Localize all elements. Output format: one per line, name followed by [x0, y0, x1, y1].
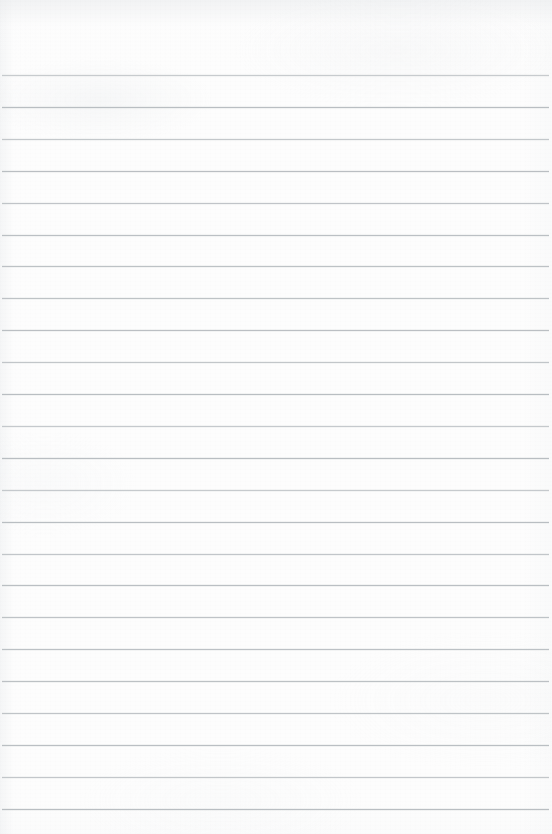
rule-line	[2, 713, 549, 714]
rule-line	[2, 426, 549, 427]
rule-line	[2, 777, 549, 778]
rule-line	[2, 681, 549, 682]
rule-line	[2, 649, 549, 650]
paper-mottle-texture	[0, 0, 552, 834]
rule-line	[2, 490, 549, 491]
rule-line	[2, 139, 549, 140]
ruled-lines-layer	[0, 0, 552, 834]
rule-line	[2, 585, 549, 586]
rule-line	[2, 266, 549, 267]
rule-line	[2, 745, 549, 746]
scanned-paper-page	[0, 0, 552, 834]
rule-line	[2, 394, 549, 395]
rule-line	[2, 554, 549, 555]
rule-line	[2, 362, 549, 363]
rule-line	[2, 107, 549, 108]
paper-grain-texture	[0, 0, 552, 834]
rule-line	[2, 522, 549, 523]
rule-line	[2, 298, 549, 299]
rule-line	[2, 809, 549, 810]
rule-line	[2, 617, 549, 618]
rule-line	[2, 171, 549, 172]
rule-line	[2, 458, 549, 459]
rule-line	[2, 75, 549, 76]
rule-line	[2, 203, 549, 204]
rule-line	[2, 330, 549, 331]
rule-line	[2, 235, 549, 236]
